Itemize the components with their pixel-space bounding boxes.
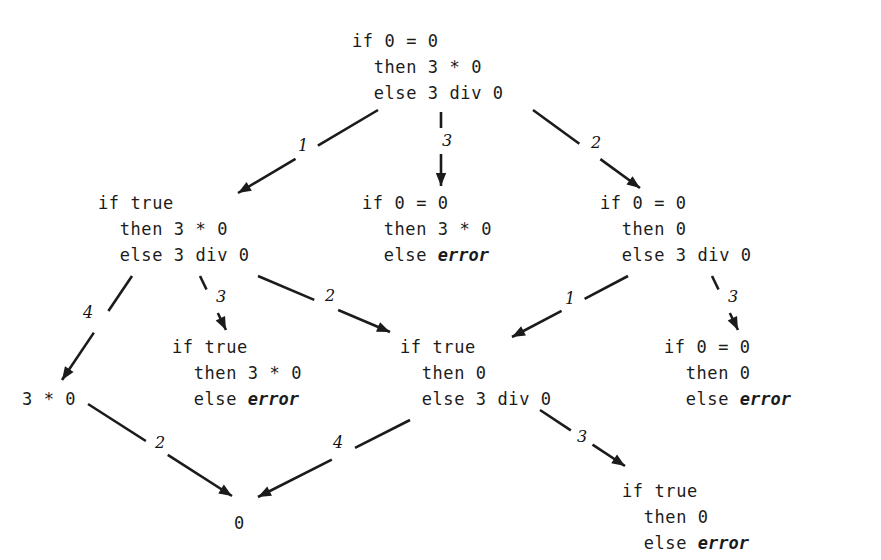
edge-shaft (200, 276, 207, 290)
expression-line: then 3 * 0 (352, 54, 504, 80)
edge-shaft (533, 110, 579, 144)
edge-shaft (88, 404, 146, 441)
expression-line: then 0 (622, 504, 749, 530)
expression-line: 3 * 0 (22, 386, 76, 412)
arrowhead-icon (376, 322, 390, 332)
arrowhead-icon (626, 176, 640, 188)
expression-node: if 0 = 0 then 3 * 0 else error (362, 190, 492, 268)
expression-line: if true (172, 334, 302, 360)
expression-node: if 0 = 0 then 3 * 0 else 3 div 0 (352, 28, 504, 106)
expression-line: then 3 * 0 (172, 360, 302, 386)
reduction-graph-diagram: if 0 = 0 then 3 * 0 else 3 div 0if true … (0, 0, 881, 560)
expression-node: 0 (234, 510, 245, 536)
arrowhead-icon (258, 486, 272, 497)
edge-label: 1 (565, 291, 575, 307)
edge-shaft (355, 420, 410, 448)
edge-shaft (585, 276, 628, 299)
edge-label: 3 (728, 289, 738, 305)
expression-line: if 0 = 0 (362, 190, 492, 216)
expression-line: else 3 div 0 (400, 386, 552, 412)
edge-label: 4 (333, 435, 343, 451)
arrowhead-icon (62, 366, 74, 380)
expression-line: then 0 (400, 360, 552, 386)
edge-label: 2 (591, 135, 601, 151)
edge-shaft (108, 276, 132, 311)
expression-line: else error (664, 386, 791, 412)
error-token: error (438, 245, 489, 265)
expression-line: if true (400, 334, 552, 360)
arrowhead-icon (436, 173, 446, 186)
edge-label: 3 (577, 429, 587, 445)
expression-line: else error (622, 530, 749, 556)
expression-line: if 0 = 0 (600, 190, 752, 216)
expression-line: 0 (234, 510, 245, 536)
edge-label: 3 (442, 133, 452, 149)
arrowhead-icon (611, 455, 625, 466)
error-token: error (698, 533, 749, 553)
expression-line: else error (362, 242, 492, 268)
expression-line: else 3 div 0 (600, 242, 752, 268)
edge-label: 1 (298, 138, 308, 154)
expression-line: if 0 = 0 (352, 28, 504, 54)
expression-line: if true (622, 478, 749, 504)
expression-line: else error (172, 386, 302, 412)
expression-node: if true then 3 * 0 else 3 div 0 (98, 190, 250, 268)
expression-node: if true then 0 else 3 div 0 (400, 334, 552, 412)
edge-shaft (712, 276, 719, 290)
expression-node: 3 * 0 (22, 386, 76, 412)
edge-label: 2 (155, 435, 165, 451)
expression-node: if 0 = 0 then 0 else error (664, 334, 791, 412)
error-token: error (248, 389, 299, 409)
reduction-edge (258, 420, 410, 497)
arrowhead-icon (218, 485, 232, 496)
reduction-edge (533, 110, 640, 188)
expression-node: if true then 0 else error (622, 478, 749, 556)
arrowhead-icon (216, 316, 226, 330)
expression-line: then 3 * 0 (362, 216, 492, 242)
edge-label: 4 (83, 305, 93, 321)
expression-line: if 0 = 0 (664, 334, 791, 360)
expression-line: else 3 div 0 (98, 242, 250, 268)
expression-line: then 3 * 0 (98, 216, 250, 242)
edge-label: 2 (325, 288, 335, 304)
expression-line: then 0 (664, 360, 791, 386)
expression-line: else 3 div 0 (352, 80, 504, 106)
edge-label: 3 (216, 289, 226, 305)
error-token: error (740, 389, 791, 409)
arrowhead-icon (728, 316, 738, 330)
edge-shaft (540, 410, 571, 430)
expression-line: if true (98, 190, 250, 216)
expression-node: if 0 = 0 then 0 else 3 div 0 (600, 190, 752, 268)
expression-node: if true then 3 * 0 else error (172, 334, 302, 412)
expression-line: then 0 (600, 216, 752, 242)
reduction-edge (258, 276, 390, 332)
edge-shaft (318, 110, 378, 146)
edge-shaft (258, 276, 314, 300)
reduction-edge (62, 276, 132, 380)
